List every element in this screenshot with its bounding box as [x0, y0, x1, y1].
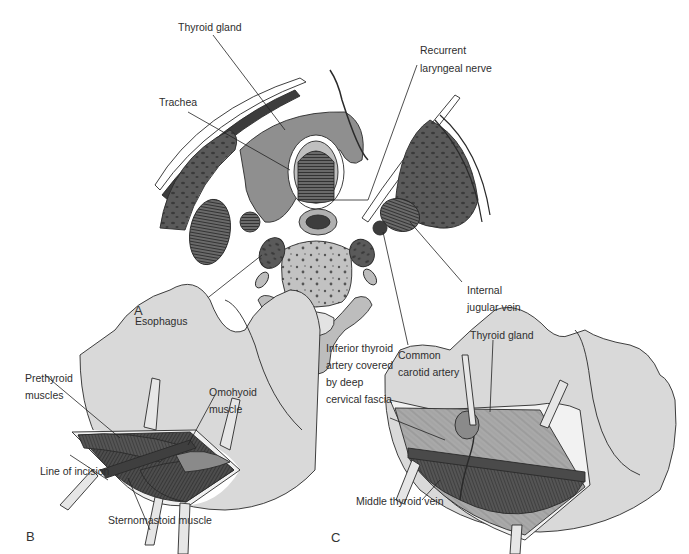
label-inferior-thyroid-artery-4: cervical fascia	[326, 393, 392, 406]
label-sternomastoid-muscle: Sternomastoid muscle	[108, 514, 212, 527]
panel-letter-b: B	[26, 529, 35, 544]
label-prethyroid-muscles-1: Prethyroid	[25, 372, 73, 385]
label-recurrent-laryngeal-nerve-1: Recurrent	[420, 44, 466, 57]
label-common-carotid-artery-2: carotid artery	[398, 366, 459, 379]
label-inferior-thyroid-artery-3: by deep	[326, 376, 363, 389]
panel-letter-c: C	[331, 530, 340, 545]
label-omohyoid-muscle-1: Omohyoid	[209, 386, 257, 399]
label-recurrent-laryngeal-nerve-2: laryngeal nerve	[420, 62, 492, 75]
label-inferior-thyroid-artery-2: artery covered	[326, 359, 393, 372]
label-internal-jugular-vein-1: Internal	[467, 284, 502, 297]
panel-c-surgical-exposure	[385, 308, 676, 554]
label-omohyoid-muscle-2: muscle	[209, 403, 242, 416]
label-thyroid-gland-a: Thyroid gland	[178, 21, 242, 34]
label-common-carotid-artery-1: Common	[398, 349, 441, 362]
label-internal-jugular-vein-2: jugular vein	[467, 301, 521, 314]
label-thyroid-gland-c: Thyroid gland	[470, 329, 534, 342]
label-line-of-incision: Line of incision	[40, 465, 109, 478]
label-prethyroid-muscles-2: muscles	[25, 389, 64, 402]
label-trachea: Trachea	[159, 96, 197, 109]
panel-letter-a: A	[134, 303, 143, 318]
label-inferior-thyroid-artery-1: Inferior thyroid	[326, 342, 393, 355]
label-middle-thyroid-vein: Middle thyroid vein	[356, 495, 444, 508]
